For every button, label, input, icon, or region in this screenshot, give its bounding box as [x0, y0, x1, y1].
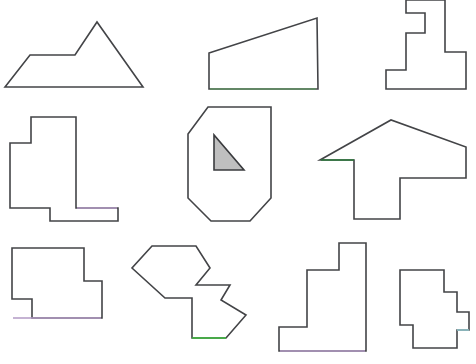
shapes-svg-root	[0, 0, 476, 364]
shape-group-octagon-with-triangle[interactable]	[188, 107, 271, 221]
figure-canvas	[0, 0, 476, 364]
